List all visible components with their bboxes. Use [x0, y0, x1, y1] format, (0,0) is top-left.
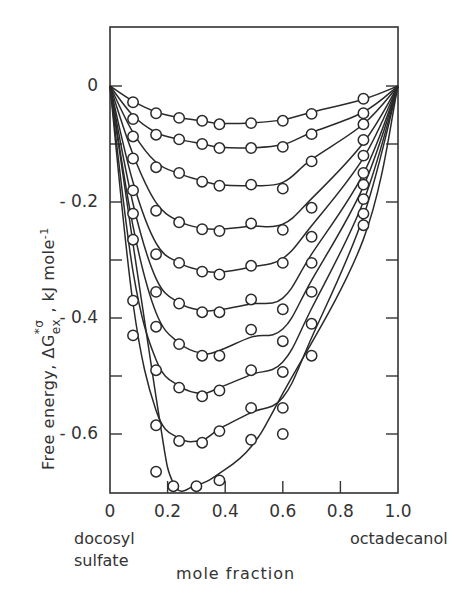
- data-point-marker: [128, 114, 138, 124]
- data-point-marker: [278, 183, 288, 193]
- x-tick-label: 1.0: [373, 501, 423, 521]
- data-point-marker: [306, 258, 316, 268]
- data-point-marker: [128, 131, 138, 141]
- data-point-marker: [197, 139, 207, 149]
- data-point-marker: [306, 156, 316, 166]
- data-point-marker: [358, 208, 368, 218]
- data-point-marker: [174, 217, 184, 227]
- data-point-marker: [151, 365, 161, 375]
- data-point-marker: [128, 330, 138, 340]
- data-point-marker: [174, 382, 184, 392]
- data-point-marker: [306, 287, 316, 297]
- data-point-marker: [128, 295, 138, 305]
- y-axis-title-sub: ex: [49, 319, 63, 334]
- data-point-marker: [174, 436, 184, 446]
- data-point-marker: [246, 365, 256, 375]
- data-point-marker: [128, 208, 138, 218]
- data-point-marker: [358, 94, 368, 104]
- data-point-marker: [278, 225, 288, 235]
- data-point-marker: [214, 385, 224, 395]
- data-point-marker: [174, 339, 184, 349]
- data-point-marker: [191, 481, 201, 491]
- data-point-marker: [358, 150, 368, 160]
- data-point-marker: [151, 206, 161, 216]
- data-point-marker: [128, 235, 138, 245]
- data-point-marker: [358, 108, 368, 118]
- data-point-marker: [151, 162, 161, 172]
- y-axis-title-main: Free energy, ΔG: [39, 334, 58, 470]
- x-right-end-label: octadecanol: [350, 528, 448, 550]
- data-point-marker: [306, 203, 316, 213]
- data-point-marker: [197, 391, 207, 401]
- data-point-marker: [246, 143, 256, 153]
- y-tick-label: 0: [38, 75, 98, 95]
- data-point-marker: [151, 249, 161, 259]
- left-end-label-line2: sulfate: [74, 550, 135, 572]
- data-point-marker: [128, 153, 138, 163]
- x-tick-label: 0.8: [315, 501, 365, 521]
- data-point-marker: [278, 116, 288, 126]
- data-point-marker: [278, 304, 288, 314]
- data-point-marker: [306, 109, 316, 119]
- data-point-marker: [168, 481, 178, 491]
- data-point-marker: [151, 420, 161, 430]
- data-point-marker: [278, 336, 288, 346]
- data-point-marker: [246, 403, 256, 413]
- data-point-marker: [197, 307, 207, 317]
- data-point-marker: [128, 185, 138, 195]
- data-point-marker: [197, 177, 207, 187]
- data-point-marker: [246, 435, 256, 445]
- data-point-marker: [174, 168, 184, 178]
- data-point-marker: [246, 294, 256, 304]
- data-point-marker: [214, 181, 224, 191]
- data-point-marker: [278, 142, 288, 152]
- data-point-marker: [214, 475, 224, 485]
- data-point-marker: [358, 194, 368, 204]
- data-point-marker: [151, 467, 161, 477]
- data-point-marker: [358, 135, 368, 145]
- data-point-marker: [151, 322, 161, 332]
- data-point-marker: [246, 218, 256, 228]
- data-point-marker: [197, 438, 207, 448]
- data-point-marker: [278, 403, 288, 413]
- data-point-marker: [214, 307, 224, 317]
- data-point-marker: [174, 298, 184, 308]
- data-point-marker: [278, 258, 288, 268]
- data-point-marker: [174, 134, 184, 144]
- x-tick-label: 0.2: [143, 501, 193, 521]
- data-point-marker: [128, 97, 138, 107]
- x-tick-label: 0: [85, 501, 135, 521]
- data-point-marker: [246, 261, 256, 271]
- data-point-marker: [246, 324, 256, 334]
- data-point-marker: [306, 129, 316, 139]
- data-point-marker: [174, 258, 184, 268]
- data-point-marker: [358, 119, 368, 129]
- left-end-label-line1: docosyl: [74, 528, 135, 550]
- data-point-marker: [358, 168, 368, 178]
- data-point-marker: [306, 351, 316, 361]
- y-axis-title: Free energy, ΔG *σ ex , kJ mole-1: [38, 227, 58, 470]
- data-point-marker: [214, 226, 224, 236]
- data-point-marker: [214, 351, 224, 361]
- data-point-marker: [197, 266, 207, 276]
- data-point-marker: [151, 108, 161, 118]
- y-axis-title-unit-exp: -1: [38, 227, 51, 239]
- data-point-marker: [214, 143, 224, 153]
- data-point-marker: [358, 220, 368, 230]
- data-point-marker: [306, 319, 316, 329]
- data-point-marker: [278, 367, 288, 377]
- y-axis-title-sup: *σ: [32, 320, 46, 335]
- data-point-marker: [197, 351, 207, 361]
- data-point-marker: [174, 113, 184, 123]
- data-point-marker: [151, 130, 161, 140]
- data-point-marker: [358, 179, 368, 189]
- data-point-marker: [278, 429, 288, 439]
- x-axis-title: mole fraction: [176, 564, 295, 583]
- data-point-marker: [214, 119, 224, 129]
- data-point-marker: [246, 118, 256, 128]
- data-point-marker: [214, 426, 224, 436]
- data-point-marker: [151, 287, 161, 297]
- x-left-end-label: docosyl sulfate: [74, 528, 135, 572]
- data-point-marker: [197, 116, 207, 126]
- data-point-marker: [306, 232, 316, 242]
